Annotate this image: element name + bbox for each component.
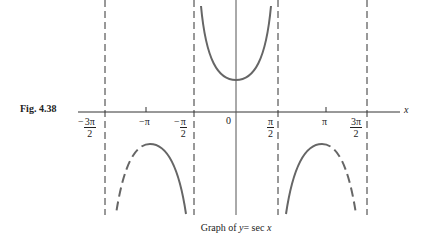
x-axis-label: x bbox=[404, 104, 408, 115]
origin-label: 0 bbox=[226, 115, 231, 126]
tick-pi: π bbox=[322, 116, 327, 127]
figure-label: Fig. 4.38 bbox=[20, 103, 56, 114]
tick-neg-pi: −π bbox=[139, 116, 150, 127]
tick-pi-2: π2 bbox=[267, 116, 274, 139]
caption: Graph of y= sec x bbox=[0, 222, 432, 233]
tick-neg-pi-2: −π2 bbox=[174, 116, 187, 139]
tick-3pi-2: 3π2 bbox=[350, 116, 362, 139]
sec-graph bbox=[0, 0, 432, 239]
tick-neg-3pi-2: −3π2 bbox=[78, 116, 96, 139]
